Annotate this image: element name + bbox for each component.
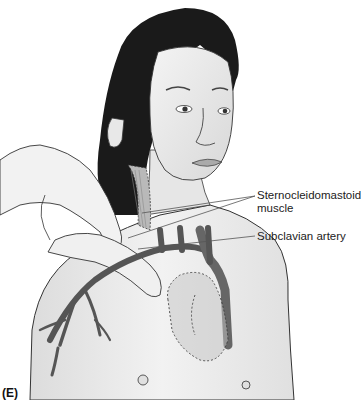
right-nipple	[242, 381, 250, 389]
label-subclavian-artery: Subclavian artery	[257, 230, 346, 243]
label-line: Subclavian artery	[257, 230, 346, 243]
panel-label: (E)	[2, 386, 18, 400]
label-line: muscle	[257, 202, 361, 215]
left-nipple	[138, 375, 148, 385]
label-sternocleidomastoid-muscle: Sternocleidomastoid muscle	[257, 189, 361, 215]
label-line: Sternocleidomastoid	[257, 189, 361, 202]
